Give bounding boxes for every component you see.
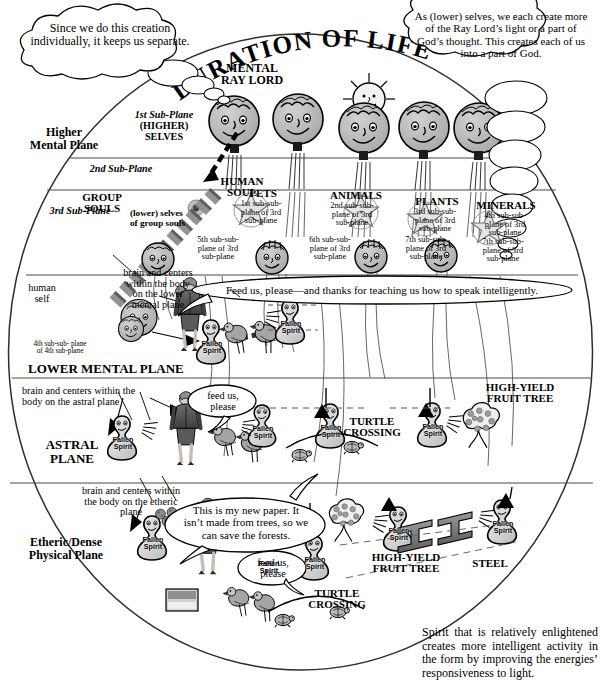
fallen-spirit-word: Fallen Spirit <box>486 521 520 534</box>
label-fruit-tree-astral: HIGH-YIELD FRUIT TREE <box>470 382 570 405</box>
human-self-plane-label: 4th sub-sub- plane of 4th sub-plane <box>8 341 112 356</box>
kingdom-plane-pets: 1st sub-sub- plane of 3rd sub-plane <box>222 200 300 226</box>
kingdom-soulplane-minerals: 7th sub-sub- plane of 3rd sub-plane <box>462 238 544 264</box>
annotation-brain-lower-mental: brain and centers within the body on the… <box>100 268 216 310</box>
label-turtle-crossing-etheric: TURTLE CROSSING <box>296 588 378 611</box>
fallen-spirit-word: Fallen Spirit <box>195 341 229 354</box>
bubble-right-top: As (lower) selves, we each create more o… <box>412 10 590 59</box>
fallen-spirit-word: Fallen Spirit <box>314 425 348 438</box>
kingdom-name-plants: PLANTS <box>404 196 470 207</box>
lower-selves-group-souls-label: (lower) selves of group souls <box>130 209 234 228</box>
human-self-label: human self <box>13 283 71 304</box>
kingdom-name-animals: ANIMALS <box>318 190 394 201</box>
kingdom-soulplane-animals: 6th sub-sub- plane of 3rd sub-plane <box>290 236 370 262</box>
mental-ray-lord-label: MENTAL RAY LORD <box>190 62 314 87</box>
bubble-feed-teach: Feed us, please—and thanks for teaching … <box>200 284 564 296</box>
fallen-spirit-word: Fallen Spirit <box>416 424 450 437</box>
kingdom-soulplane-pets: 5th sub-sub- plane of 3rd sub-plane <box>178 236 258 262</box>
fallen-spirit-word: Fallen Spirit <box>136 537 170 550</box>
kingdom-name-minerals: MINERALS <box>464 200 548 211</box>
subplane-2nd-label: 2nd Sub-Plane <box>66 164 176 175</box>
footer-caption: Spirit that is relatively enlightened cr… <box>422 626 598 681</box>
kingdom-soulplane-plants: 7th sub-sub- plane of 3rd sub-plane <box>386 236 466 262</box>
kingdom-plane-plants: 3rd sub-sub- plane of 3rd sub-plane <box>396 208 474 234</box>
label-steel: STEEL <box>462 558 518 569</box>
subplane-1st-selves-label: (HIGHER) SELVES <box>118 121 210 142</box>
plane-label-higher-mental: Higher Mental Plane <box>4 126 124 152</box>
bubble-left-top: Since we do this creation individually, … <box>30 22 190 49</box>
plane-label-etheric: Etheric/Dense Physical Plane <box>6 536 126 562</box>
fallen-spirit-word: Fallen Spirit <box>274 321 308 334</box>
annotation-brain-astral: brain and centers within the body on the… <box>22 386 218 407</box>
kingdom-plane-minerals: 4th sub-sub- plane of 3rd sub-plane <box>464 212 546 238</box>
fallen-spirit-word: Fallen Spirit <box>382 528 416 541</box>
bubble-feed-astral: feed us, please <box>196 390 250 413</box>
bubble-new-paper: This is my new paper. It isn’t made from… <box>183 504 309 541</box>
plane-label-lower-mental: LOWER MENTAL PLANE <box>28 362 238 376</box>
fallen-spirit-word: Fallen Spirit <box>246 426 280 439</box>
fallen-spirit-word: Fallen Spirit <box>106 437 140 450</box>
kingdom-name-pets: PETS <box>232 188 294 199</box>
bubble-feed-etheric: feed us, please <box>246 557 300 580</box>
label-fruit-tree-etheric: HIGH-YIELD FRUIT TREE <box>356 552 456 575</box>
fallen-spirit-word: Fallen Spirit <box>298 557 332 570</box>
kingdom-plane-animals: 2nd sub-sub- plane of 3rd sub-plane <box>312 202 392 228</box>
